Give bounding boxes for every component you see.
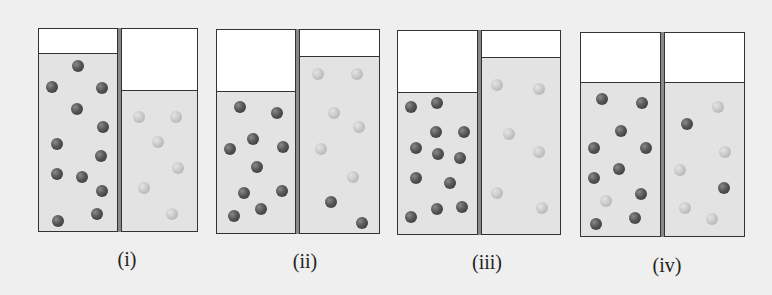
light-particle — [600, 195, 612, 207]
light-particle — [712, 101, 724, 113]
left-headspace — [39, 29, 117, 54]
dark-particle — [51, 138, 63, 150]
dark-particle — [432, 148, 444, 160]
panel-label: (i) — [118, 248, 137, 271]
dark-particle — [410, 172, 422, 184]
dark-particle — [681, 118, 693, 130]
light-particle — [533, 146, 545, 158]
light-particle — [533, 83, 545, 95]
light-particle — [491, 187, 503, 199]
light-particle — [170, 111, 182, 123]
right-chamber — [480, 30, 561, 235]
dark-particle — [590, 218, 602, 230]
dark-particle — [444, 177, 456, 189]
light-particle — [133, 111, 145, 123]
dark-particle — [640, 142, 652, 154]
dark-particle — [454, 152, 466, 164]
dark-particle — [46, 81, 58, 93]
light-particle — [351, 68, 363, 80]
dark-particle — [52, 215, 64, 227]
light-particle — [536, 202, 548, 214]
light-particle — [138, 182, 150, 194]
dark-particle — [96, 185, 108, 197]
dark-particle — [224, 143, 236, 155]
right-chamber — [663, 32, 745, 237]
dark-particle — [72, 60, 84, 72]
right-chamber — [120, 28, 198, 232]
dark-particle — [247, 133, 259, 145]
dark-particle — [91, 208, 103, 220]
dark-particle — [96, 82, 108, 94]
dark-particle — [251, 161, 263, 173]
right-chamber — [298, 29, 380, 234]
light-particle — [674, 164, 686, 176]
left-headspace — [398, 31, 477, 93]
dark-particle — [51, 168, 63, 180]
dark-particle — [629, 212, 641, 224]
light-particle — [152, 136, 164, 148]
dark-particle — [430, 126, 442, 138]
dark-particle — [456, 201, 468, 213]
dark-particle — [458, 126, 470, 138]
right-headspace — [299, 30, 379, 57]
dark-particle — [271, 107, 283, 119]
right-headspace — [481, 31, 560, 58]
light-particle — [172, 162, 184, 174]
dark-particle — [97, 121, 109, 133]
dark-particle — [613, 163, 625, 175]
dark-particle — [615, 125, 627, 137]
right-headspace — [664, 33, 744, 83]
right-headspace — [121, 29, 197, 91]
membrane-divider — [295, 29, 300, 234]
light-particle — [166, 208, 178, 220]
panel-label: (ii) — [293, 250, 317, 273]
light-particle — [491, 79, 503, 91]
dark-particle — [431, 203, 443, 215]
light-particle — [719, 146, 731, 158]
dark-particle — [95, 150, 107, 162]
membrane-divider — [660, 32, 665, 237]
light-particle — [312, 68, 324, 80]
light-particle — [353, 121, 365, 133]
panel-label: (iv) — [653, 254, 682, 277]
dark-particle — [255, 203, 267, 215]
dark-particle — [238, 187, 250, 199]
dark-particle — [588, 172, 600, 184]
dark-particle — [588, 142, 600, 154]
panel-label: (iii) — [472, 251, 502, 274]
dark-particle — [228, 210, 240, 222]
light-particle — [328, 107, 340, 119]
dark-particle — [325, 196, 337, 208]
dark-particle — [410, 142, 422, 154]
left-headspace — [581, 33, 660, 83]
dark-particle — [405, 101, 417, 113]
dark-particle — [71, 103, 83, 115]
dark-particle — [596, 93, 608, 105]
light-particle — [679, 202, 691, 214]
dark-particle — [76, 171, 88, 183]
dark-particle — [635, 188, 647, 200]
membrane-divider — [477, 30, 482, 235]
dark-particle — [636, 97, 648, 109]
dark-particle — [431, 97, 443, 109]
light-particle — [503, 128, 515, 140]
light-particle — [315, 143, 327, 155]
left-chamber — [216, 29, 296, 234]
dark-particle — [277, 141, 289, 153]
membrane-divider — [117, 28, 122, 232]
dark-particle — [234, 101, 246, 113]
light-particle — [706, 213, 718, 225]
dark-particle — [718, 182, 730, 194]
dark-particle — [356, 217, 368, 229]
dark-particle — [276, 185, 288, 197]
left-headspace — [217, 30, 295, 92]
light-particle — [347, 171, 359, 183]
dark-particle — [405, 211, 417, 223]
